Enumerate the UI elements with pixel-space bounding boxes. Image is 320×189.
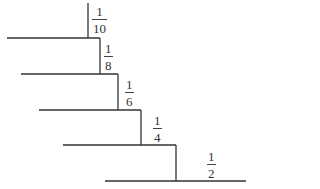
fraction-bar (92, 19, 107, 20)
numerator: 1 (153, 114, 162, 127)
fraction-label-1-4: 1 4 (153, 114, 162, 144)
fraction-label-1-10: 1 10 (92, 5, 107, 35)
denominator: 2 (207, 167, 216, 180)
fraction-label-1-2: 1 2 (207, 150, 216, 180)
fraction-bar (153, 128, 162, 129)
numerator: 1 (104, 42, 113, 55)
fraction-label-1-6: 1 6 (125, 78, 134, 108)
numerator: 1 (95, 5, 104, 18)
denominator: 6 (125, 95, 134, 108)
numerator: 1 (125, 78, 134, 91)
denominator: 10 (92, 22, 107, 35)
denominator: 4 (153, 131, 162, 144)
fraction-bar (125, 92, 134, 93)
fraction-bar (104, 56, 113, 57)
fraction-bar (207, 164, 216, 165)
numerator: 1 (207, 150, 216, 163)
denominator: 8 (104, 59, 113, 72)
fraction-label-1-8: 1 8 (104, 42, 113, 72)
